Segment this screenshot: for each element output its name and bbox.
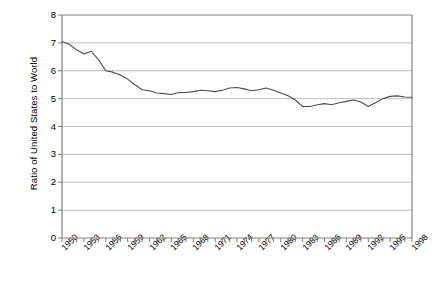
gridlines [62, 43, 412, 210]
data-series-line [62, 41, 412, 106]
line-chart: Ratio of United States to World 87654321… [0, 0, 446, 290]
plot-area [0, 0, 446, 290]
x-axis-ticks [62, 238, 412, 242]
